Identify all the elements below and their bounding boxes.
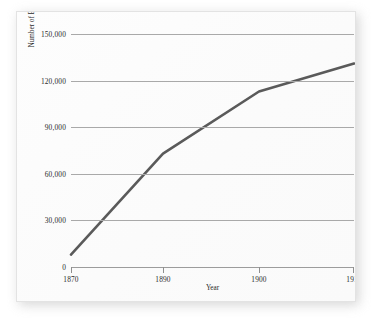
x-tick-label: 1910: [346, 275, 356, 284]
chart-card: Number of Black Farm Owners 150,000120,0…: [16, 11, 356, 302]
y-tick-label: 90,000: [45, 123, 66, 132]
plot-area: 150,000120,00090,00060,00030,0000: [71, 34, 354, 267]
x-tick-mark: [353, 267, 354, 273]
chart-figure: Number of Black Farm Owners 150,000120,0…: [0, 0, 389, 325]
x-tick-label: 1900: [251, 275, 266, 284]
line-series-svg: [71, 34, 354, 267]
y-tick-label: 30,000: [45, 216, 66, 225]
gridline-y: [71, 81, 354, 82]
line-series-black-farm-owners: [71, 64, 354, 255]
x-tick-label: 1890: [155, 275, 170, 284]
y-tick-label: 60,000: [45, 169, 66, 178]
gridline-y: [71, 174, 354, 175]
y-tick-label: 150,000: [41, 30, 66, 39]
x-tick-mark: [259, 267, 260, 273]
gridline-y: [71, 34, 354, 35]
gridline-y: [71, 127, 354, 128]
y-tick-label: 120,000: [41, 76, 66, 85]
x-tick-mark: [163, 267, 164, 273]
y-tick-label: 0: [62, 263, 66, 272]
x-tick-label: 1870: [63, 275, 78, 284]
x-axis-line: 1870189019001910: [71, 267, 354, 268]
y-axis-title: Number of Black Farm Owners: [28, 11, 36, 72]
x-tick-mark: [71, 267, 72, 273]
x-axis-title: Year: [71, 284, 354, 292]
gridline-y: [71, 220, 354, 221]
